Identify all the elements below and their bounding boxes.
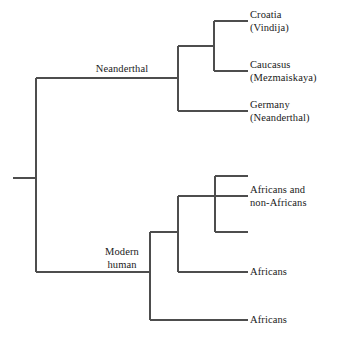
tip-label-line: Caucasus: [250, 59, 317, 72]
tree-branch-lines: [0, 0, 338, 352]
tip-label-germany: Germany(Neanderthal): [250, 99, 310, 124]
tip-label-line: Croatia: [250, 9, 289, 22]
node-label-line: Neanderthal: [64, 63, 180, 76]
tip-label-caucasus: Caucasus(Mezmaiskaya): [250, 59, 317, 84]
tip-label-line: Africans: [250, 314, 287, 327]
tip-label-line: Africans: [250, 266, 287, 279]
tip-label-line: (Vindija): [250, 22, 289, 35]
node-label-line: human: [72, 259, 172, 272]
tip-label-africans-lower: Africans: [250, 314, 287, 327]
tip-label-line: (Mezmaiskaya): [250, 72, 317, 85]
node-label-neanderthal: Neanderthal: [64, 63, 180, 76]
tip-label-line: Africans and: [250, 184, 307, 197]
phylogenetic-tree-figure: Croatia(Vindija)Caucasus(Mezmaiskaya)Ger…: [0, 0, 338, 352]
node-label-modern-human: Modernhuman: [72, 246, 172, 271]
tip-label-croatia: Croatia(Vindija): [250, 9, 289, 34]
node-label-line: Modern: [72, 246, 172, 259]
tip-label-africans-and-non-africans: Africans andnon-Africans: [250, 184, 307, 209]
tip-label-line: non-Africans: [250, 197, 307, 210]
tip-label-line: Germany: [250, 99, 310, 112]
tip-label-line: (Neanderthal): [250, 112, 310, 125]
tip-label-africans-upper: Africans: [250, 266, 287, 279]
